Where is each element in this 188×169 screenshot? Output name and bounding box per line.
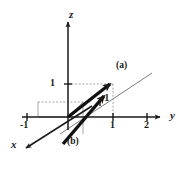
- z-axis-label: z: [69, 9, 73, 20]
- tick-label-z-one: 1: [50, 78, 55, 88]
- x-axis-label: x: [11, 139, 17, 150]
- vector-b-label: (b): [67, 137, 79, 147]
- axis-lines: [22, 22, 160, 148]
- diagram-canvas: [0, 0, 188, 169]
- guide-parallel-diagonal: [60, 73, 152, 134]
- construction-guide-lines: [38, 73, 152, 134]
- tick-label-y-one: 1: [110, 120, 115, 130]
- tick-label-y-two: 2: [144, 120, 149, 130]
- vector-a-label: (a): [116, 61, 127, 71]
- y-axis-label: y: [170, 110, 175, 121]
- tick-label-y-negative-one: -1: [20, 120, 28, 130]
- tick-label-x-negative-one: -1: [101, 93, 109, 103]
- vector-diagram-figure: z y x -1 1 2 1 -1 (a) (b): [0, 0, 188, 169]
- x-axis-line: [26, 106, 92, 148]
